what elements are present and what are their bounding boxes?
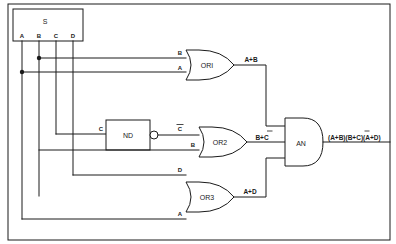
logic-circuit-diagram: S A B C D ORI B A A+B C ND C B OR2 B+C xyxy=(0,0,396,244)
source-output-d-label: D xyxy=(71,33,76,39)
nd-input-label: C xyxy=(99,126,104,132)
or2-gate-label: OR2 xyxy=(213,139,228,146)
or3-output-label: A+D xyxy=(243,188,256,195)
nd-output-label: C xyxy=(178,126,183,132)
final-output-expression: (A+B)(B+C)(A+D) xyxy=(328,134,381,142)
or2-output-label: B+C xyxy=(255,134,269,141)
junction-a-or1 xyxy=(20,70,24,74)
or1-output-label: A+B xyxy=(244,56,257,63)
wire-or3-to-and xyxy=(234,158,285,197)
or2-output-prefix: B+ xyxy=(255,134,264,141)
source-output-c-label: C xyxy=(54,33,59,39)
or1-input-bottom-label: A xyxy=(178,65,183,71)
nd-inverter-bubble-icon xyxy=(150,131,158,139)
source-output-a-label: A xyxy=(20,33,25,39)
source-block-label: S xyxy=(43,18,48,25)
final-expr-part2: )(A+D) xyxy=(361,134,381,142)
junction-b-or1 xyxy=(37,56,41,60)
circuit-canvas: S A B C D ORI B A A+B C ND C B OR2 B+C xyxy=(0,0,396,244)
source-output-b-label: B xyxy=(37,33,42,39)
or1-gate-label: ORI xyxy=(201,62,214,69)
or2-input-bottom-label: B xyxy=(191,142,196,148)
or3-input-top-label: D xyxy=(178,167,183,173)
nd-gate-label: ND xyxy=(123,132,133,139)
or3-gate-label: OR3 xyxy=(200,194,215,201)
and-gate-label: AN xyxy=(296,140,306,147)
wire-or1-to-and xyxy=(234,65,285,126)
or1-input-top-label: B xyxy=(178,50,183,56)
final-expr-part1: (A+B)(B+ xyxy=(328,134,356,142)
or3-input-bottom-label: A xyxy=(178,211,183,217)
or2-output-barred: C xyxy=(264,134,269,141)
